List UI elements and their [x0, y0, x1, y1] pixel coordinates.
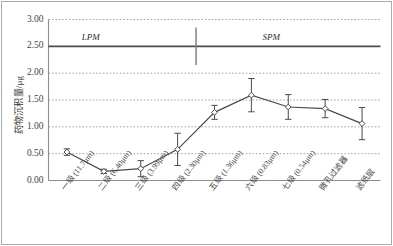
- data-point-marker: [285, 104, 291, 110]
- y-axis-tick-label: 0.50: [0, 149, 44, 159]
- y-axis-tick-label: 2.50: [0, 41, 44, 51]
- y-axis-tick-label: 2.00: [0, 68, 44, 78]
- chart-figure: 药物沉积量/μg 0.000.501.001.502.002.503.00 一级…: [0, 0, 393, 246]
- y-axis-tick-label: 1.00: [0, 122, 44, 132]
- y-axis-tick-label: 1.50: [0, 95, 44, 105]
- data-point-marker: [248, 92, 254, 98]
- band-label: LPM: [82, 32, 100, 42]
- data-point-marker: [359, 121, 365, 127]
- plot-canvas: [0, 0, 393, 246]
- data-point-marker: [322, 106, 328, 112]
- y-axis-tick-label: 0.00: [0, 176, 44, 186]
- band-label: SPM: [263, 32, 281, 42]
- y-axis-tick-label: 3.00: [0, 15, 44, 25]
